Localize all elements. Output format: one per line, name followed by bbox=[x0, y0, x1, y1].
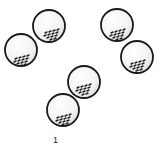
golf-ball-pair-left bbox=[5, 10, 65, 66]
figure-caption-number: 1 bbox=[53, 135, 58, 145]
golf-ball-icon bbox=[33, 10, 65, 42]
golf-ball-icon bbox=[47, 94, 79, 126]
golf-ball-icon bbox=[68, 66, 100, 98]
golf-ball-icon bbox=[5, 34, 37, 66]
golf-ball-icon bbox=[101, 9, 133, 41]
golf-ball-pair-bottom bbox=[47, 66, 100, 126]
golf-balls-illustration bbox=[0, 0, 158, 147]
golf-ball-icon bbox=[121, 41, 153, 73]
golf-ball-pair-right bbox=[101, 9, 153, 73]
